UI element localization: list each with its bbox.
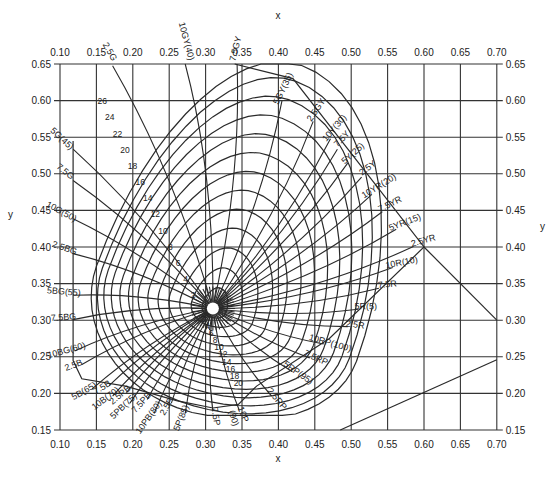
chroma-label: 18: [128, 161, 138, 171]
x-tick-label-bottom: 0.60: [414, 439, 434, 450]
hue-label: 7.5BG: [50, 311, 76, 323]
chroma-label: 22: [113, 129, 123, 139]
x-tick-label-top: 0.25: [159, 47, 179, 58]
chroma-label: 16: [135, 177, 145, 187]
chroma-label: 6: [176, 258, 181, 268]
y-tick-label-left: 0.65: [32, 59, 52, 70]
x-tick-label-bottom: 0.55: [378, 439, 398, 450]
x-tick-label-top: 0.45: [305, 47, 325, 58]
chroma-label: 26: [97, 96, 107, 106]
y-tick-label-left: 0.50: [32, 168, 52, 179]
x-tick-label-bottom: 0.10: [50, 439, 70, 450]
hue-label: 5R(5): [354, 301, 377, 311]
x-tick-label-bottom: 0.30: [196, 439, 216, 450]
x-tick-label-bottom: 0.15: [87, 439, 107, 450]
x-axis-label-bottom: x: [276, 453, 281, 464]
hue-label: 5B(65): [70, 380, 98, 402]
chroma-label: 14: [143, 193, 153, 203]
x-tick-label-bottom: 0.45: [305, 439, 325, 450]
chroma-label: 20: [234, 378, 244, 388]
hue-label: 7.5P: [209, 406, 222, 426]
chroma-label: 4: [183, 274, 188, 284]
white-point: [207, 302, 219, 314]
hue-label: 7.5RP: [303, 348, 330, 367]
hue-ray: [213, 308, 358, 313]
y-tick-label-right: 0.20: [506, 388, 526, 399]
chroma-label: 24: [105, 112, 115, 122]
y-tick-label-left: 0.20: [32, 388, 52, 399]
y-tick-label-right: 0.15: [506, 425, 526, 436]
y-tick-label-right: 0.30: [506, 315, 526, 326]
chroma-label: 2: [191, 290, 196, 300]
y-axis-label-right: y: [540, 221, 545, 232]
hue-label: 5P(85): [171, 404, 191, 433]
y-tick-label-right: 0.40: [506, 242, 526, 253]
y-tick-label-right: 0.65: [506, 59, 526, 70]
boundary-line: [340, 360, 497, 430]
y-tick-label-left: 0.15: [32, 425, 52, 436]
hue-ray: [213, 149, 338, 308]
x-tick-label-top: 0.10: [50, 47, 70, 58]
x-tick-label-top: 0.30: [196, 47, 216, 58]
x-tick-label-bottom: 0.65: [451, 439, 471, 450]
hue-label: 10GY(40): [177, 21, 197, 61]
hue-labels: 2.5G10GY(40)7.5GY5GY(35)2.5GY10Y(30)7.5Y…: [45, 21, 438, 436]
x-tick-label-top: 0.20: [123, 47, 143, 58]
y-tick-label-right: 0.55: [506, 132, 526, 143]
x-tick-label-bottom: 0.70: [487, 439, 507, 450]
hue-label: 5YR(15): [387, 212, 422, 233]
x-axis-label-top: x: [276, 10, 281, 21]
x-tick-label-top: 0.50: [341, 47, 361, 58]
chroma-label: 8: [168, 242, 173, 252]
y-tick-label-left: 0.40: [32, 242, 52, 253]
y-tick-label-right: 0.60: [506, 95, 526, 106]
hue-label: 7.5YR: [376, 194, 403, 214]
y-tick-label-right: 0.50: [506, 168, 526, 179]
hue-label: 7.5R: [377, 278, 397, 290]
x-tick-label-bottom: 0.35: [232, 439, 252, 450]
y-tick-label-right: 0.45: [506, 205, 526, 216]
y-axis-label-left: y: [8, 209, 13, 220]
x-tick-label-top: 0.70: [487, 47, 507, 58]
chroma-label: 10: [158, 226, 168, 236]
hue-label: 2.5BG: [51, 239, 78, 257]
chroma-label: 12: [151, 209, 161, 219]
chroma-label: 20: [120, 145, 130, 155]
x-tick-label-top: 0.60: [414, 47, 434, 58]
y-tick-label-right: 0.25: [506, 351, 526, 362]
y-tick-label-left: 0.30: [32, 315, 52, 326]
munsell-chromaticity-chart: 0.100.100.150.150.200.200.250.250.300.30…: [0, 0, 555, 484]
hue-label: 5G(45): [48, 125, 75, 151]
x-tick-label-bottom: 0.50: [341, 439, 361, 450]
hue-label: 2.5RP: [265, 386, 289, 412]
x-tick-label-top: 0.55: [378, 47, 398, 58]
x-tick-label-bottom: 0.25: [159, 439, 179, 450]
y-tick-label-left: 0.60: [32, 95, 52, 106]
y-tick-label-right: 0.35: [506, 278, 526, 289]
x-tick-label-top: 0.65: [451, 47, 471, 58]
x-tick-label-bottom: 0.40: [269, 439, 289, 450]
hue-label: 2.5R: [345, 318, 366, 330]
hue-label: 5BG(55): [47, 285, 82, 298]
hue-label: 2.5B: [63, 357, 84, 373]
y-tick-label-left: 0.55: [32, 132, 52, 143]
x-tick-label-top: 0.40: [269, 47, 289, 58]
x-tick-label-bottom: 0.20: [123, 439, 143, 450]
